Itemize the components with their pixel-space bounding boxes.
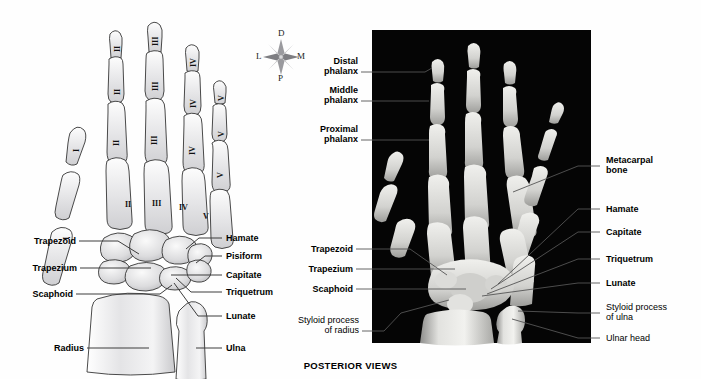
label-xray-trapezium: Trapezium	[283, 264, 353, 274]
label-illustration-hamate: Hamate	[226, 233, 259, 243]
numeral-proximal-5: V	[216, 172, 225, 178]
compass-label-d: D	[278, 28, 285, 38]
label-illustration-capitate: Capitate	[226, 270, 262, 280]
label-xray-styloid-radius: Styloid process of radius	[275, 315, 359, 335]
compass-label-l: L	[256, 51, 262, 61]
label-xray-hamate: Hamate	[606, 204, 639, 214]
label-illustration-trapezium: Trapezium	[0, 263, 77, 273]
drawn-hand-bones	[43, 22, 234, 379]
label-xray-capitate: Capitate	[606, 227, 642, 237]
numeral-metacarpal-3: III	[152, 199, 161, 208]
numeral-metacarpal-4: IV	[179, 203, 188, 212]
label-xray-middle-phalanx: Middle phalanx	[288, 85, 358, 105]
label-illustration-triquetrum: Triquetrum	[226, 287, 273, 297]
label-xray-triquetrum: Triquetrum	[606, 254, 653, 264]
numeral-distal-2: II	[113, 46, 122, 52]
carpal-bones	[99, 230, 213, 291]
numeral-middle-4: IV	[189, 99, 198, 108]
label-xray-metacarpal-bone: Metacarpal bone	[606, 155, 653, 175]
label-illustration-ulna: Ulna	[226, 343, 246, 353]
numeral-middle-3: III	[151, 82, 160, 91]
label-illustration-pisiform: Pisiform	[226, 251, 262, 261]
digit-5	[210, 81, 233, 249]
label-xray-proximal-phalanx: Proximal phalanx	[282, 124, 358, 144]
numeral-metacarpal-2: II	[125, 200, 131, 209]
numeral-middle-2: II	[113, 89, 122, 95]
label-xray-trapezoid: Trapezoid	[283, 244, 353, 254]
label-illustration-radius: Radius	[0, 343, 84, 353]
label-xray-styloid-ulna: Styloid process of ulna	[606, 302, 667, 322]
numeral-proximal-1: I	[72, 149, 81, 152]
numeral-distal-4: IV	[189, 58, 198, 67]
numeral-proximal-2: II	[112, 140, 121, 146]
label-illustration-trapezoid: Trapezoid	[0, 236, 76, 246]
label-xray-lunate: Lunate	[606, 278, 636, 288]
compass-label-p: P	[278, 73, 283, 83]
label-xray-distal-phalanx: Distal phalanx	[288, 56, 358, 76]
label-xray-ulnar-head: Ulnar head	[606, 333, 650, 343]
label-illustration-scaphoid: Scaphoid	[0, 289, 73, 299]
label-xray-scaphoid: Scaphoid	[283, 284, 353, 294]
label-illustration-lunate: Lunate	[226, 311, 256, 321]
numeral-metacarpal-5: V	[203, 212, 209, 221]
numeral-proximal-3: III	[150, 136, 159, 145]
figure-caption: POSTERIOR VIEWS	[0, 360, 701, 371]
hand-skeleton-figure: D M P L II III IV V II III IV V I II III…	[0, 0, 701, 379]
numeral-proximal-4: IV	[188, 146, 197, 155]
numeral-distal-5: V	[217, 95, 226, 101]
numeral-distal-3: III	[151, 37, 160, 46]
numeral-middle-5: V	[217, 131, 226, 137]
